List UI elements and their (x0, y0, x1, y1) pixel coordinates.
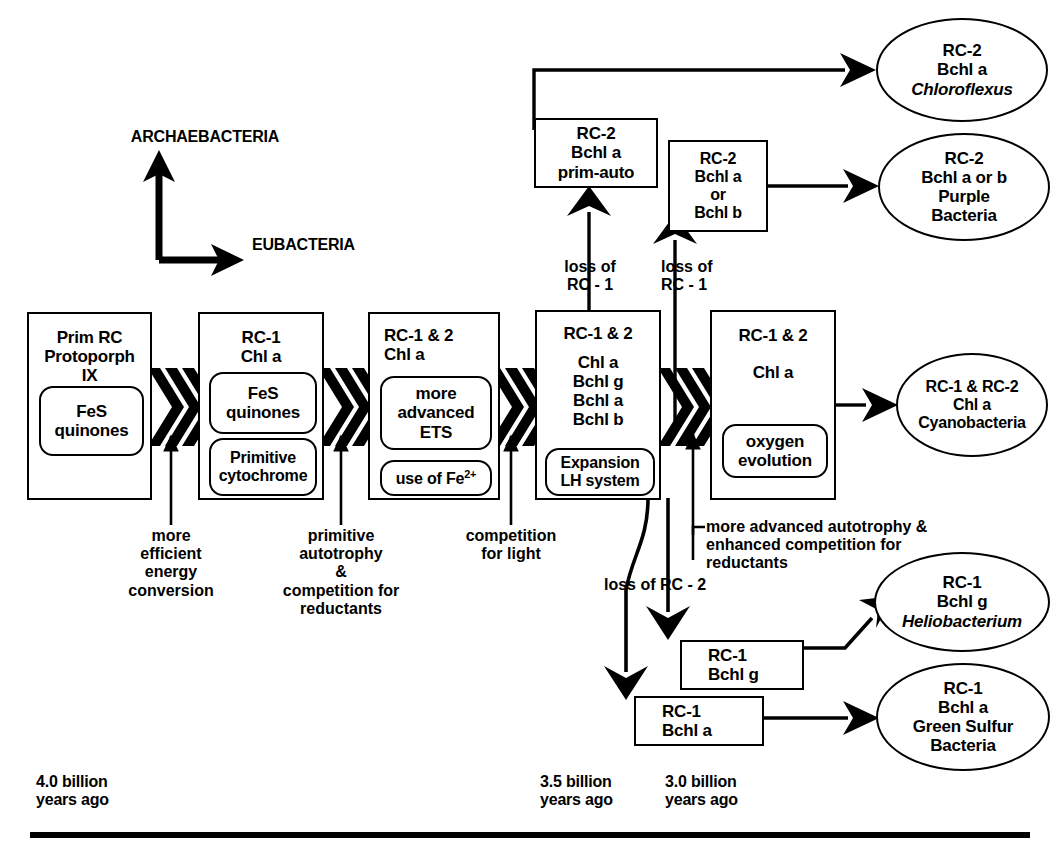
box-header: Prim RC Protoporph IX (44, 328, 135, 385)
box-rc2-bchl-a-or-b: RC-2 Bchl a or Bchl b (668, 140, 768, 232)
label-more-advanced-autotrophy: more advanced autotrophy & enhanced comp… (706, 518, 1036, 573)
label-more-efficient-energy: more efficient energy conversion (96, 527, 246, 600)
green-sulfur-link (764, 701, 879, 735)
timeline-label-4-0: 4.0 billion years ago (36, 773, 216, 809)
stage-box-rc1-chla: RC-1 Chl a FeS quinones Primitive cytoch… (198, 312, 324, 500)
inner-fes-quinones: FeS quinones (39, 386, 144, 456)
box-header: RC-1 Chl a (241, 328, 282, 366)
inner-more-advanced-ets: more advanced ETS (380, 376, 492, 450)
box-header: RC-1 & 2 (738, 326, 807, 345)
purple-bacteria-link (768, 169, 879, 203)
inner-oxygen-evolution: oxygen evolution (722, 424, 828, 478)
box-rc2-prim-auto: RC-2 Bchl a prim-auto (534, 118, 658, 188)
autotrophy-bracket (693, 527, 705, 535)
timeline-rule (30, 832, 1030, 838)
label-loss-of-rc2: loss of RC - 2 (604, 576, 804, 594)
outcome-cyanobacteria: RC-1 & RC-2 Chl a Cyanobacteria (896, 353, 1048, 457)
inner-expansion-lh-system: Expansion LH system (545, 448, 655, 496)
loss-rc2-arrow-left (604, 498, 648, 700)
box-rc1-bchl-a: RC-1 Bchl a (634, 696, 764, 746)
timeline-label-3-0: 3.0 billion years ago (665, 773, 845, 809)
stage-box-prim-rc: Prim RC Protoporph IX FeS quinones (27, 312, 152, 500)
box-body: Chl a (753, 363, 794, 382)
label-loss-of-rc1-a: loss of RC - 1 (534, 258, 646, 294)
box-header: RC-1 & 2 (563, 324, 632, 343)
label-loss-of-rc1-b: loss of RC - 1 (661, 258, 773, 294)
inner-primitive-cytochrome: Primitive cytochrome (209, 438, 317, 496)
phylogeny-fork-icon (143, 150, 244, 276)
label-eubacteria: EUBACTERIA (252, 236, 482, 254)
cyanobacteria-link (836, 388, 898, 422)
box-rc1-bchl-g: RC-1 Bchl g (680, 640, 804, 690)
outcome-green-sulfur: RC-1 Bchl a Green Sulfur Bacteria (876, 663, 1050, 771)
label-competition-for-light: competition for light (436, 527, 586, 563)
outcome-chloroflexus: RC-2 Bchl a Chloroflexus (876, 18, 1048, 122)
stage-box-rc12-oxygen: RC-1 & 2 Chl a oxygen evolution (710, 310, 836, 500)
use-of-fe-text: use of Fe2+ (396, 468, 476, 488)
label-primitive-autotrophy: primitive autotrophy & competition for r… (246, 527, 436, 618)
loss-rc2-arrow-right (646, 498, 690, 640)
stage-box-rc12-pigments: RC-1 & 2 Chl a Bchl g Bchl a Bchl b Expa… (535, 310, 661, 500)
inner-fes-quinones: FeS quinones (209, 372, 317, 434)
box-body: Chl a Bchl g Bchl a Bchl b (573, 353, 624, 429)
outcome-purple-bacteria: RC-2 Bchl a or b Purple Bacteria (878, 133, 1050, 241)
stage-box-rc12-chla: RC-1 & 2 Chl a more advanced ETS use of … (368, 312, 500, 500)
diagram-canvas: ARCHAEBACTERIA EUBACTERIA Prim RC Protop… (0, 0, 1063, 859)
label-archaebacteria: ARCHAEBACTERIA (60, 128, 350, 146)
box-header: RC-1 & 2 Chl a (384, 326, 453, 364)
inner-use-of-fe2plus: use of Fe2+ (380, 460, 492, 496)
